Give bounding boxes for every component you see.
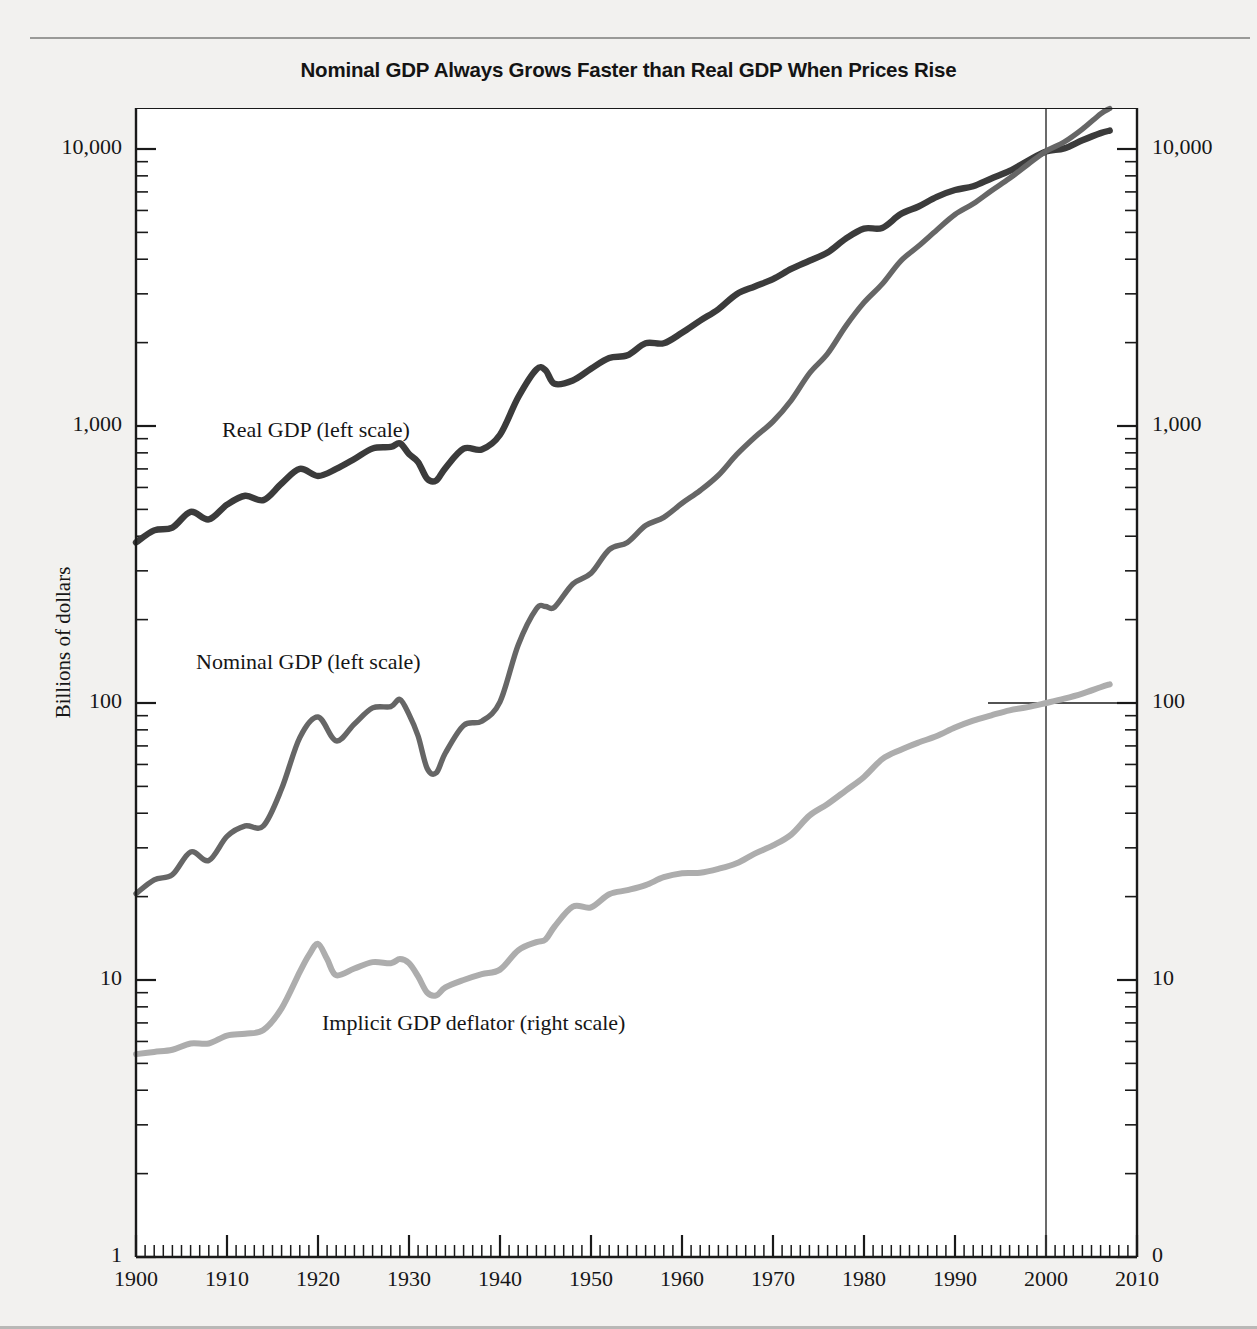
x-tick-label-1: 1910 <box>182 1268 272 1290</box>
x-tick-label-0: 1900 <box>91 1268 181 1290</box>
series-label-deflator: Implicit GDP deflator (right scale) <box>322 1010 625 1036</box>
left-tick-label-0: 10,000 <box>62 136 123 158</box>
series-label-nominal-gdp: Nominal GDP (left scale) <box>196 649 421 675</box>
right-tick-label-1: 1,000 <box>1152 413 1202 435</box>
x-tick-label-5: 1950 <box>546 1268 636 1290</box>
x-tick-label-11: 2010 <box>1092 1268 1182 1290</box>
left-tick-label-1: 1,000 <box>73 413 123 435</box>
chart-page: Nominal GDP Always Grows Faster than Rea… <box>0 0 1257 1329</box>
x-tick-label-7: 1970 <box>728 1268 818 1290</box>
left-tick-label-4: 1 <box>111 1244 122 1266</box>
x-tick-label-4: 1940 <box>455 1268 545 1290</box>
x-tick-label-2: 1920 <box>273 1268 363 1290</box>
series-label-real-gdp: Real GDP (left scale) <box>222 417 410 443</box>
chart-plot-area <box>0 0 1257 1329</box>
x-tick-label-3: 1930 <box>364 1268 454 1290</box>
right-tick-label-4: 0 <box>1152 1244 1163 1266</box>
plot-background <box>136 108 1137 1257</box>
left-tick-label-2: 100 <box>89 690 122 712</box>
right-tick-label-2: 100 <box>1152 690 1185 712</box>
x-tick-label-8: 1980 <box>819 1268 909 1290</box>
right-tick-label-0: 10,000 <box>1152 136 1213 158</box>
left-tick-label-3: 10 <box>100 967 122 989</box>
right-tick-label-3: 10 <box>1152 967 1174 989</box>
x-tick-label-10: 2000 <box>1001 1268 1091 1290</box>
x-tick-label-9: 1990 <box>910 1268 1000 1290</box>
left-axis-title: Billions of dollars <box>51 533 76 753</box>
x-tick-label-6: 1960 <box>637 1268 727 1290</box>
